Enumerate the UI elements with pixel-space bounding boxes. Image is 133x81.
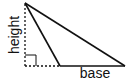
triangle-side-left [25, 3, 60, 66]
right-angle-marker [25, 55, 36, 66]
triangle-diagram: height base [0, 0, 133, 81]
base-label: base [80, 65, 111, 81]
height-label: height [6, 16, 22, 54]
triangle-side-right [25, 3, 125, 66]
